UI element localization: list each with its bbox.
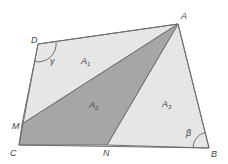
vertex-label-a: A — [180, 11, 187, 21]
angle-label-gamma: γ — [50, 56, 55, 66]
region-label-a1-sub: 1 — [87, 61, 90, 67]
vertex-label-m: M — [12, 121, 20, 131]
vertex-label-d: D — [31, 35, 38, 45]
region-label-a1-main: A — [80, 56, 87, 66]
vertex-label-c: C — [10, 148, 17, 158]
region-label-a3-main: A — [161, 99, 168, 109]
vertex-label-n: N — [103, 148, 110, 158]
diagram-canvas: A B C D M N A1 A2 A3 γ β — [0, 0, 228, 164]
region-label-a2-sub: 2 — [94, 105, 99, 111]
vertex-label-b: B — [211, 149, 217, 159]
region-label-a2-main: A — [88, 100, 95, 110]
angle-label-beta: β — [185, 128, 191, 138]
